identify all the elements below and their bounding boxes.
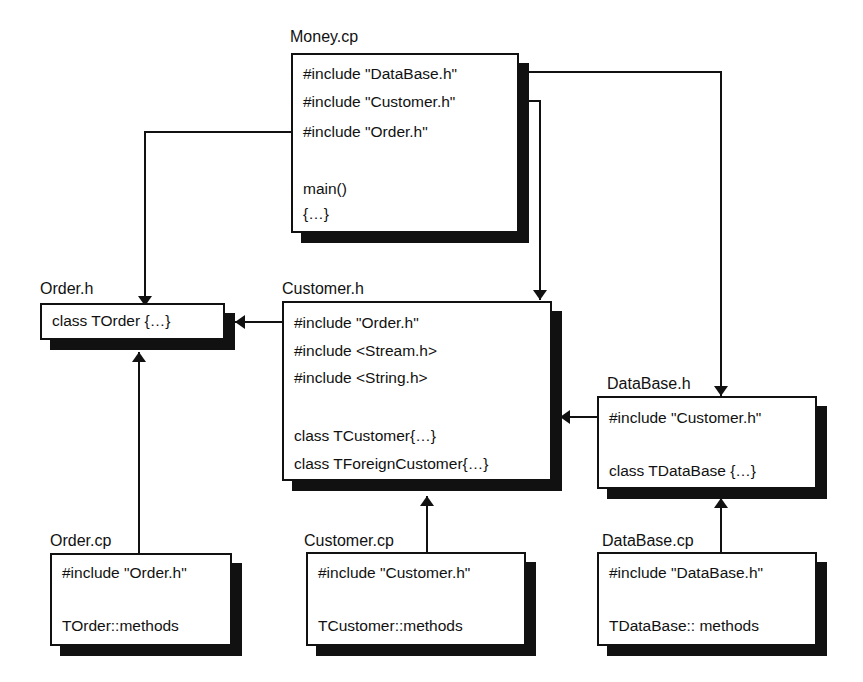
- order-h-line: class TOrder {…}: [52, 312, 170, 330]
- customer-h-line: #include "Order.h": [294, 314, 419, 332]
- customer-cp-line: #include "Customer.h": [318, 564, 470, 582]
- database-cp-box: #include "DataBase.h" TDataBase:: method…: [597, 552, 817, 646]
- money-cp-box: #include "DataBase.h" #include "Customer…: [291, 53, 519, 233]
- database-cp-title: DataBase.cp: [602, 532, 694, 550]
- customer-h-title: Customer.h: [282, 280, 364, 298]
- money-cp-line: #include "Order.h": [303, 123, 428, 141]
- database-h-title: DataBase.h: [607, 375, 691, 393]
- order-cp-title: Order.cp: [50, 532, 111, 550]
- order-cp-line: #include "Order.h": [62, 564, 187, 582]
- money-cp-line: {…}: [303, 205, 329, 223]
- money-cp-line: #include "Customer.h": [303, 93, 455, 111]
- customer-cp-box: #include "Customer.h" TCustomer::methods: [306, 552, 526, 646]
- customer-h-line: #include <String.h>: [294, 369, 428, 387]
- order-h-title: Order.h: [40, 280, 93, 298]
- order-h-box: class TOrder {…}: [40, 303, 225, 340]
- customer-cp-title: Customer.cp: [304, 532, 394, 550]
- database-h-line: #include "Customer.h": [609, 409, 761, 427]
- money-cp-title: Money.cp: [290, 28, 358, 46]
- order-cp-line: TOrder::methods: [62, 617, 179, 635]
- order-cp-box: #include "Order.h" TOrder::methods: [50, 553, 232, 646]
- customer-h-line: class TForeignCustomer{…}: [294, 455, 488, 473]
- money-cp-line: #include "DataBase.h": [303, 65, 457, 83]
- database-cp-line: TDataBase:: methods: [609, 617, 759, 635]
- customer-h-line: class TCustomer{…}: [294, 427, 436, 445]
- money-cp-line: main(): [303, 180, 347, 198]
- customer-h-box: #include "Order.h" #include <Stream.h> #…: [282, 301, 552, 481]
- database-cp-line: #include "DataBase.h": [609, 564, 763, 582]
- customer-h-line: #include <Stream.h>: [294, 342, 437, 360]
- customer-cp-line: TCustomer::methods: [318, 617, 463, 635]
- database-h-line: class TDataBase {…}: [609, 462, 756, 480]
- arrow-money-to-order-h: [145, 132, 304, 306]
- database-h-box: #include "Customer.h" class TDataBase {……: [597, 396, 817, 489]
